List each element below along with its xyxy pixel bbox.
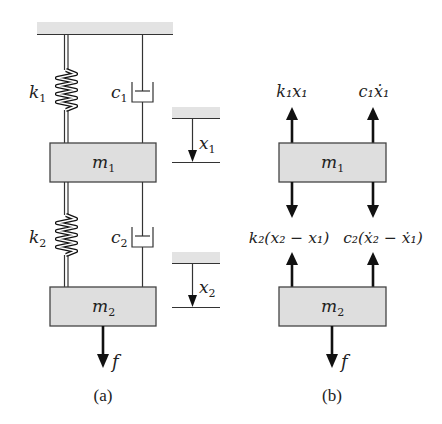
force-arrow-k2-down [286, 182, 298, 218]
label-x1: x1 [199, 133, 216, 156]
force-arrow-c2-up [367, 252, 379, 287]
panel-a: k1 c1 m1 k2 c2 [29, 22, 220, 405]
caption-a: (a) [94, 386, 113, 405]
label-force-k2: k₂(x₂ − x₁) [249, 229, 329, 247]
force-arrow-c2-down [367, 182, 379, 218]
damper-c1 [132, 35, 153, 143]
label-c2: c2 [111, 227, 128, 250]
ceiling-ground [37, 22, 173, 35]
label-k1: k1 [29, 82, 46, 105]
panel-b: k₁x₁ c₁ẋ₁ m1 k₂(x₂ − x₁) c₂(ẋ₂ − ẋ₁) [249, 82, 423, 405]
label-force-k1x1: k₁x₁ [276, 82, 308, 101]
spring-k1 [57, 35, 76, 143]
label-force-c2: c₂(ẋ₂ − ẋ₁) [343, 229, 423, 247]
force-arrow-c1x1dot [367, 107, 379, 143]
spring-k2 [57, 182, 76, 287]
force-arrow-f-a [97, 326, 109, 368]
label-x2: x2 [199, 277, 216, 300]
two-dof-system-diagram: k1 c1 m1 k2 c2 [0, 0, 442, 424]
damper-c2 [132, 182, 153, 287]
label-f-b: f [339, 351, 351, 372]
force-arrow-f-b [326, 326, 338, 368]
force-arrow-k1x1 [286, 107, 298, 143]
label-force-c1x1dot: c₁ẋ₁ [359, 82, 390, 101]
caption-b: (b) [322, 386, 342, 405]
label-k2: k2 [29, 227, 46, 250]
force-arrow-k2-up [286, 252, 298, 287]
label-f-a: f [110, 351, 122, 372]
label-c1: c1 [111, 82, 128, 105]
